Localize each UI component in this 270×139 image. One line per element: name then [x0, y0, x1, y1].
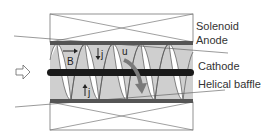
cathode-label: Cathode [198, 60, 240, 72]
solenoid-bottom [50, 102, 193, 130]
helical-baffle-diagram: B j j u Solenoid Anode Cathode Helical b… [0, 0, 270, 139]
flow-velocity-symbol: u [122, 46, 128, 57]
solenoid-label: Solenoid [196, 20, 239, 32]
magnetic-field-symbol: B [67, 56, 74, 67]
helical-baffle-label: Helical baffle [198, 78, 261, 90]
inflow-arrow-icon [16, 65, 30, 79]
current-density-symbol-top: j [100, 49, 103, 60]
current-density-symbol-bottom: j [87, 87, 90, 98]
cathode-rod [47, 69, 194, 76]
anode-label: Anode [196, 34, 228, 46]
solenoid-top [50, 14, 193, 42]
